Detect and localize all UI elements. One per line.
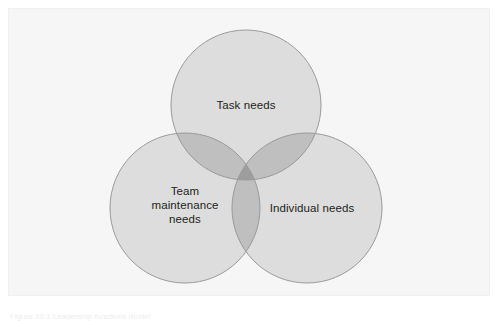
figure-panel xyxy=(8,8,490,296)
figure-root: Task needs Teammaintenanceneeds Individu… xyxy=(0,0,498,321)
figure-caption: Figure 10.1 Leadership functions model xyxy=(10,312,480,321)
